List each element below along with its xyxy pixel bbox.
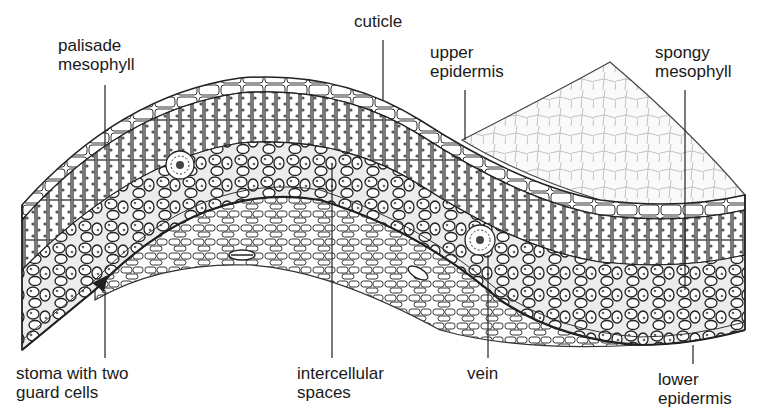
label-cuticle: cuticle [354, 12, 402, 31]
label-stoma: stoma with two guard cells [16, 364, 128, 402]
label-upper-epidermis: upper epidermis [430, 43, 504, 81]
label-palisade-mesophyll: palisade mesophyll [58, 36, 135, 74]
vein-bundle-right [465, 225, 495, 255]
label-lower-epidermis: lower epidermis [658, 370, 732, 408]
leaf-cross-section-diagram: palisade mesophyll cuticle upper epiderm… [0, 0, 759, 413]
label-spongy-mesophyll: spongy mesophyll [655, 43, 732, 81]
vein-bundle-left [166, 151, 194, 179]
label-vein: vein [467, 364, 498, 383]
label-intercellular-spaces: intercellular spaces [297, 364, 384, 402]
